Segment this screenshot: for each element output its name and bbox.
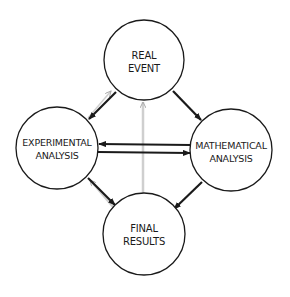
edge-real-event-to-experimental [89, 92, 116, 119]
real-event-label-line2: EVENT [128, 62, 160, 75]
edge-real-event-to-mathematical [173, 91, 201, 120]
final-results-label: FINAL RESULTS [123, 222, 165, 248]
edge-experimental-to-real-event-faint [88, 91, 111, 118]
experimental-analysis-label-line1: EXPERIMENTAL [22, 136, 91, 149]
final-results-label-line1: FINAL [123, 222, 165, 235]
edge-mathematical-to-final [174, 182, 202, 209]
real-event-label-line1: REAL [128, 49, 160, 62]
experimental-analysis-label-line2: ANALYSIS [22, 149, 91, 162]
mathematical-analysis-label-line2: ANALYSIS [195, 152, 267, 165]
real-event-label: REAL EVENT [128, 49, 160, 75]
experimental-analysis-label: EXPERIMENTAL ANALYSIS [22, 136, 91, 162]
edge-mathematical-to-experimental [99, 144, 191, 145]
mathematical-analysis-label-line1: MATHEMATICAL [195, 139, 267, 152]
edge-experimental-to-mathematical [98, 152, 190, 153]
mathematical-analysis-label: MATHEMATICAL ANALYSIS [195, 139, 267, 165]
edge-experimental-to-final [88, 178, 115, 205]
final-results-label-line2: RESULTS [123, 235, 165, 248]
